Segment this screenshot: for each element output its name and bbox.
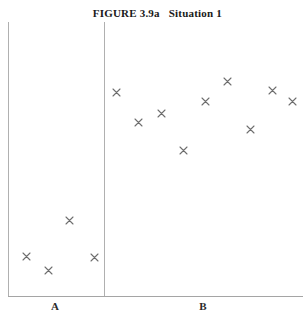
data-point-a-1 <box>65 216 74 225</box>
data-point-b-5 <box>201 97 210 106</box>
data-point-a-2 <box>22 252 31 261</box>
data-point-b-7 <box>246 125 255 134</box>
baseline-axis-line <box>8 296 303 297</box>
axis-label-group-b: B <box>193 300 213 312</box>
data-point-b-2 <box>134 118 143 127</box>
figure-container: FIGURE 3.9aSituation 1 AB <box>0 0 303 318</box>
data-point-b-9 <box>288 97 297 106</box>
plot-area: AB <box>0 0 303 318</box>
data-point-b-3 <box>157 109 166 118</box>
data-point-a-4 <box>44 266 53 275</box>
group-divider-line <box>104 22 105 297</box>
data-point-b-8 <box>268 86 277 95</box>
data-point-b-4 <box>179 146 188 155</box>
data-point-b-1 <box>112 88 121 97</box>
left-axis-line <box>8 22 9 297</box>
data-point-b-6 <box>223 77 232 86</box>
data-point-a-3 <box>90 253 99 262</box>
axis-label-group-a: A <box>45 300 65 312</box>
